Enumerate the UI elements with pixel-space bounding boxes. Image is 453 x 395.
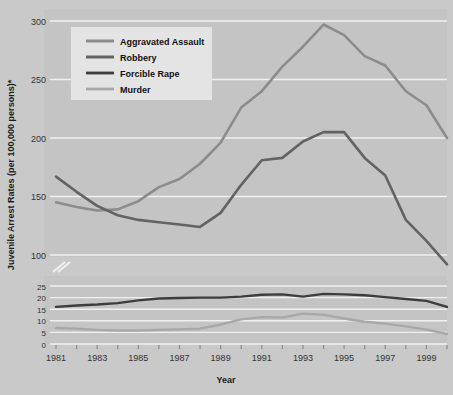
x-tick-label: 1997 xyxy=(375,353,395,363)
x-tick-label: 1995 xyxy=(334,353,354,363)
legend: Aggravated AssaultRobberyForcible RapeMu… xyxy=(71,27,212,100)
legend-label-robbery: Robbery xyxy=(120,53,157,63)
legend-label-aggravated-assault: Aggravated Assault xyxy=(120,37,204,47)
y-tick-label: 10 xyxy=(37,317,46,326)
y-tick-label: 100 xyxy=(31,251,46,261)
y-tick-label: 200 xyxy=(31,134,46,144)
juvenile-arrest-rates-chart: 100150200250300 0510152025 1981198319851… xyxy=(0,0,453,395)
y-tick-label: 150 xyxy=(31,192,46,202)
y-tick-label: 20 xyxy=(37,294,46,303)
x-tick-label: 1989 xyxy=(211,353,231,363)
y-tick-label: 0 xyxy=(42,341,47,350)
chart-container: 100150200250300 0510152025 1981198319851… xyxy=(0,0,453,395)
legend-label-forcible-rape: Forcible Rape xyxy=(120,69,180,79)
x-tick-label: 1985 xyxy=(128,353,148,363)
x-tick-label: 1983 xyxy=(87,353,107,363)
y-tick-label: 5 xyxy=(42,329,47,338)
legend-label-murder: Murder xyxy=(120,85,151,95)
x-axis-title: Year xyxy=(216,375,236,385)
x-tick-label: 1987 xyxy=(169,353,189,363)
y-tick-label: 250 xyxy=(31,75,46,85)
x-tick-label: 1993 xyxy=(293,353,313,363)
x-tick-label: 1981 xyxy=(46,353,66,363)
x-tick-label: 1991 xyxy=(252,353,272,363)
y-tick-label: 15 xyxy=(37,306,46,315)
y-axis-title: Juvenile Arrest Rates (per 100,000 perso… xyxy=(6,79,16,270)
y-tick-label: 300 xyxy=(31,17,46,27)
y-tick-label: 25 xyxy=(37,283,46,292)
x-tick-label: 1999 xyxy=(416,353,436,363)
